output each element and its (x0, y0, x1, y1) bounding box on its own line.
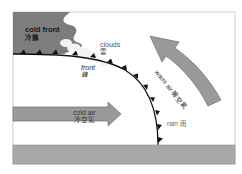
cold-front-label-zh: 冷鋒 (25, 35, 60, 42)
cold-air-label-en: cold air (73, 109, 96, 116)
cold-front-diagram: cold front 冷鋒 clouds 雲 front 鋒 cold air … (0, 0, 242, 174)
cold-front-label: cold front 冷鋒 (25, 26, 60, 41)
cold-front-label-en: cold front (25, 26, 60, 34)
front-label: front 鋒 (81, 64, 95, 79)
clouds-label: clouds 雲 (100, 41, 120, 56)
rain-label: rain 雨 (167, 121, 187, 128)
cold-air-label: cold air 冷空氣 (73, 109, 96, 124)
ground-bar (13, 145, 235, 164)
clouds-label-en: clouds (100, 41, 120, 48)
cold-air-label-zh: 冷空氣 (73, 117, 96, 124)
front-label-zh: 鋒 (81, 72, 95, 79)
clouds-label-zh: 雲 (100, 49, 120, 56)
front-label-en: front (81, 64, 95, 71)
